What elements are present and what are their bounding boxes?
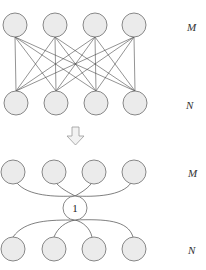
down-arrow-icon: [67, 127, 84, 145]
top-label-n: N: [185, 99, 194, 111]
top-label-m: M: [186, 21, 197, 33]
top-lower-node-4: [123, 91, 147, 115]
bottom-upper-layer: [1, 160, 146, 184]
bottom-label-n: N: [187, 244, 196, 256]
bottom-lower-node-4: [122, 237, 146, 261]
hub-node: 1: [63, 196, 87, 220]
top-lower-node-3: [84, 91, 108, 115]
top-upper-node-3: [83, 13, 107, 37]
bottom-lower-node-1: [1, 237, 25, 261]
top-upper-node-2: [43, 13, 67, 37]
bottom-lower-layer: [1, 237, 146, 261]
top-lower-node-1: [4, 91, 28, 115]
top-upper-node-1: [3, 13, 27, 37]
top-upper-layer: [3, 13, 146, 37]
hub-label: 1: [72, 202, 78, 214]
bottom-label-m: M: [187, 167, 198, 179]
top-upper-node-4: [122, 13, 146, 37]
bottom-upper-node-4: [122, 160, 146, 184]
bottom-lower-node-3: [82, 237, 106, 261]
bottom-lower-curves: [13, 220, 133, 237]
top-lower-node-2: [44, 91, 68, 115]
diagram-canvas: M N 1 M N: [0, 0, 206, 270]
bottom-upper-node-3: [82, 160, 106, 184]
top-edges: [15, 37, 135, 91]
bottom-upper-curves: [17, 183, 131, 196]
bottom-upper-node-2: [42, 160, 66, 184]
bottom-upper-node-1: [1, 160, 25, 184]
top-lower-layer: [4, 91, 147, 115]
bottom-lower-node-2: [42, 237, 66, 261]
